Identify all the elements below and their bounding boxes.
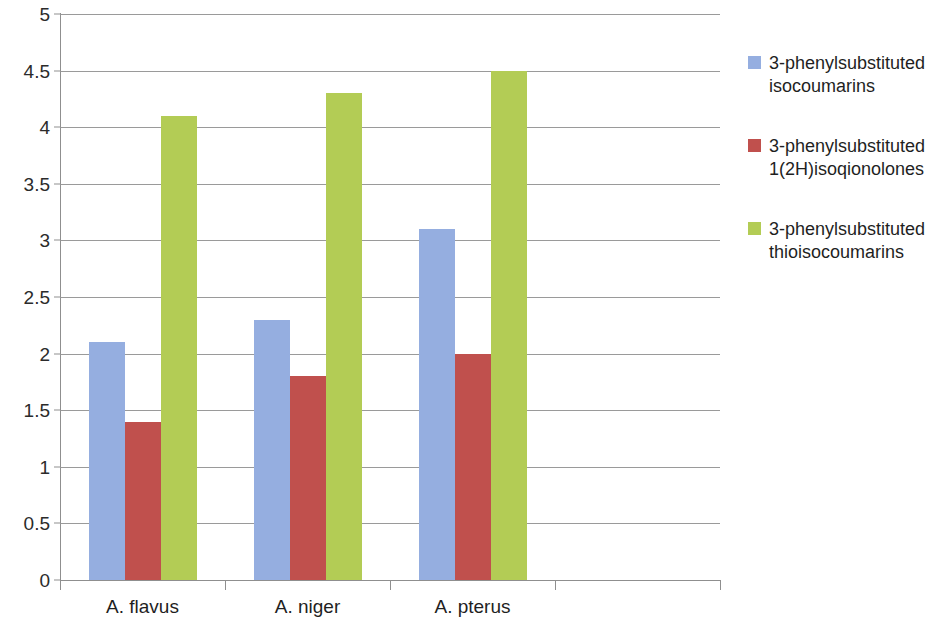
y-axis-tick-mark xyxy=(54,183,61,184)
y-axis-tick-mark xyxy=(54,353,61,354)
x-axis-tick-mark xyxy=(60,580,61,590)
bar xyxy=(254,320,290,580)
y-axis-tick-label: 2 xyxy=(4,344,50,363)
legend-item-label: 3-phenylsubstituted 1(2H)isoqionolones xyxy=(769,135,925,180)
y-axis-tick-label: 4 xyxy=(4,118,50,137)
gridline xyxy=(60,240,720,241)
y-axis-tick-mark xyxy=(54,70,61,71)
legend-swatch-icon xyxy=(748,139,761,152)
legend-item-label: 3-phenylsubstituted thioisocoumarins xyxy=(769,218,925,263)
y-axis-tick-label: 0.5 xyxy=(4,514,50,533)
bar xyxy=(125,422,161,580)
plot-area xyxy=(60,14,720,580)
y-axis-tick-mark xyxy=(54,466,61,467)
legend-swatch-icon xyxy=(748,56,761,69)
legend-item[interactable]: 3-phenylsubstituted 1(2H)isoqionolones xyxy=(748,135,925,180)
bar xyxy=(290,376,326,580)
bar xyxy=(326,93,362,580)
gridline xyxy=(60,410,720,411)
y-axis-tick-label: 3 xyxy=(4,231,50,250)
bar xyxy=(161,116,197,580)
legend-swatch-icon xyxy=(748,222,761,235)
x-axis-category-label: A. pterus xyxy=(434,597,510,616)
x-axis-tick-mark xyxy=(720,580,721,590)
y-axis-tick-label: 3.5 xyxy=(4,174,50,193)
gridline xyxy=(60,184,720,185)
y-axis-tick-mark xyxy=(54,127,61,128)
bar xyxy=(89,342,125,580)
legend-item[interactable]: 3-phenylsubstituted isocoumarins xyxy=(748,52,925,97)
y-axis-tick-label: 5 xyxy=(4,5,50,24)
x-axis-category-label: A. flavus xyxy=(106,597,179,616)
gridline xyxy=(60,354,720,355)
bar-chart-figure: 54.543.532.521.510.50 A. flavusA. nigerA… xyxy=(0,0,944,627)
y-axis-tick-label: 4.5 xyxy=(4,61,50,80)
gridline xyxy=(60,127,720,128)
y-axis-tick-label: 0 xyxy=(4,571,50,590)
bar xyxy=(455,354,491,580)
x-axis-category-label: A. niger xyxy=(275,597,340,616)
x-axis-tick-mark xyxy=(555,580,556,590)
gridline xyxy=(60,297,720,298)
legend-item[interactable]: 3-phenylsubstituted thioisocoumarins xyxy=(748,218,925,263)
gridline xyxy=(60,71,720,72)
x-axis-tick-mark xyxy=(390,580,391,590)
y-axis-tick-mark xyxy=(54,523,61,524)
y-axis-tick-mark xyxy=(54,297,61,298)
y-axis-tick-label: 1.5 xyxy=(4,401,50,420)
y-axis-labels: 54.543.532.521.510.50 xyxy=(0,0,50,627)
y-axis-tick-mark xyxy=(54,410,61,411)
legend-item-label: 3-phenylsubstituted isocoumarins xyxy=(769,52,925,97)
bar xyxy=(419,229,455,580)
y-axis-tick-mark xyxy=(54,240,61,241)
y-axis-tick-mark xyxy=(54,14,61,15)
bar xyxy=(491,71,527,580)
y-axis-tick-label: 2.5 xyxy=(4,288,50,307)
y-axis-tick-label: 1 xyxy=(4,457,50,476)
x-axis-tick-mark xyxy=(225,580,226,590)
gridline xyxy=(60,14,720,15)
